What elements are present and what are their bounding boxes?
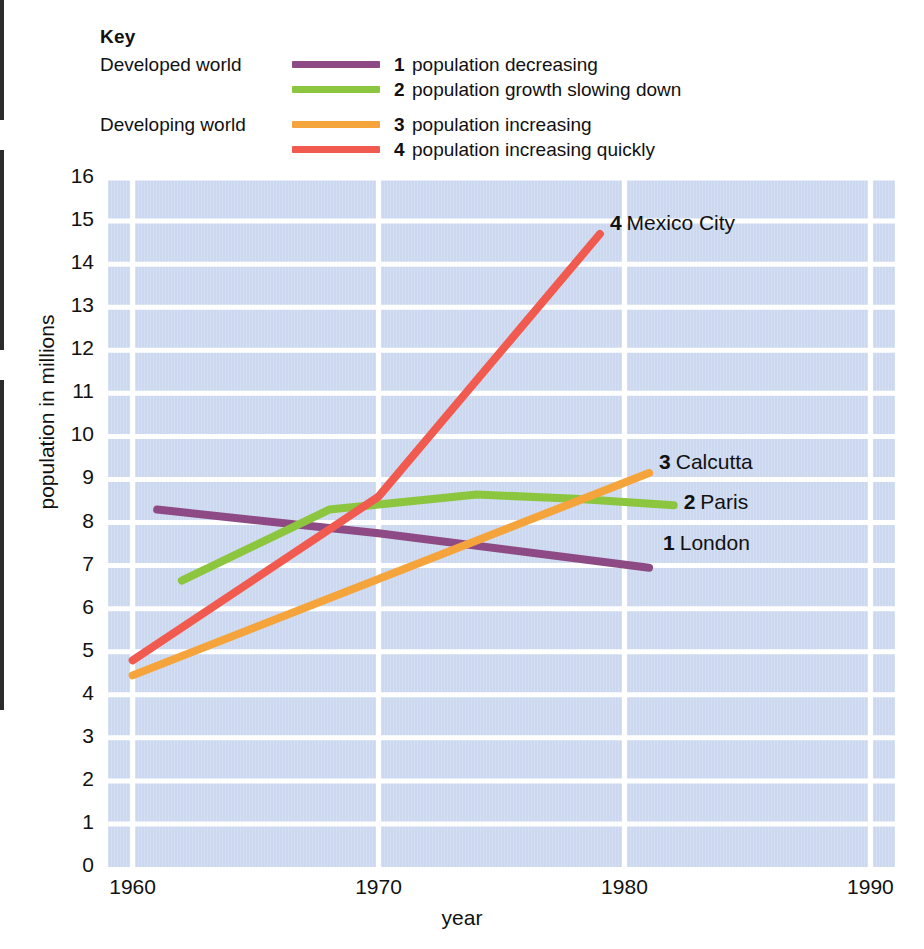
y-axis-title: population in millions bbox=[35, 297, 59, 527]
y-tick-label: 14 bbox=[54, 250, 94, 274]
y-tick-label: 0 bbox=[54, 853, 94, 877]
y-tick-label: 8 bbox=[54, 509, 94, 533]
y-tick-label: 11 bbox=[54, 379, 94, 403]
y-tick-label: 2 bbox=[54, 767, 94, 791]
y-tick-label: 1 bbox=[54, 810, 94, 834]
y-tick-label: 6 bbox=[54, 595, 94, 619]
y-tick-label: 16 bbox=[54, 164, 94, 188]
y-tick-label: 10 bbox=[54, 422, 94, 446]
y-tick-label: 3 bbox=[54, 724, 94, 748]
x-tick-label: 1970 bbox=[334, 875, 424, 899]
y-tick-label: 9 bbox=[54, 465, 94, 489]
plot-canvas bbox=[0, 0, 924, 949]
series-end-label-calcutta: 3Calcutta bbox=[659, 450, 753, 474]
line-chart: 0123456789101112131415161960197019801990… bbox=[0, 0, 924, 949]
series-end-label-mexico-city: 4Mexico City bbox=[610, 211, 735, 235]
series-end-label-london: 1London bbox=[663, 531, 750, 555]
y-tick-label: 7 bbox=[54, 552, 94, 576]
y-tick-label: 4 bbox=[54, 681, 94, 705]
x-tick-label: 1960 bbox=[88, 875, 178, 899]
x-axis-title: year bbox=[0, 906, 924, 930]
y-tick-label: 13 bbox=[54, 293, 94, 317]
y-tick-label: 5 bbox=[54, 638, 94, 662]
series-end-label-paris: 2Paris bbox=[684, 490, 749, 514]
x-tick-label: 1990 bbox=[825, 875, 915, 899]
y-tick-label: 12 bbox=[54, 336, 94, 360]
y-tick-label: 15 bbox=[54, 207, 94, 231]
x-tick-label: 1980 bbox=[579, 875, 669, 899]
